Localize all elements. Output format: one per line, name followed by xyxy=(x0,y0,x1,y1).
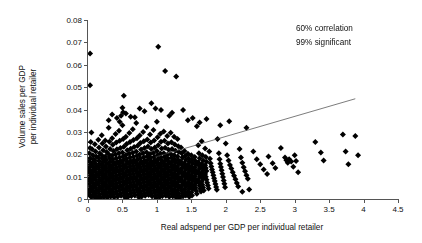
x-axis-tick xyxy=(122,199,123,203)
x-axis-tick-label: 0.5 xyxy=(117,205,128,214)
annotation-correlation: 60% correlation xyxy=(296,22,353,36)
y-axis-tick-label: 0 xyxy=(78,195,82,204)
y-axis-tick xyxy=(84,110,88,111)
x-axis-tick xyxy=(191,199,192,203)
x-axis-tick-label: 1 xyxy=(155,205,159,214)
x-axis-tick-label: 1.5 xyxy=(186,205,197,214)
y-axis-tick-label: 0.07 xyxy=(66,38,82,47)
y-axis-tick xyxy=(84,87,88,88)
annotation-significance: 99% significant xyxy=(296,36,353,50)
y-axis-tick-label: 0.08 xyxy=(66,16,82,25)
y-axis-tick xyxy=(84,177,88,178)
y-axis-tick-label: 0.04 xyxy=(66,105,82,114)
y-axis-tick-label: 0.02 xyxy=(66,150,82,159)
x-axis-title: Real adspend per GDP per individual reta… xyxy=(87,223,397,232)
y-axis-tick xyxy=(84,42,88,43)
x-axis-tick xyxy=(157,199,158,203)
y-axis-title-line1: Volume sales per GDP xyxy=(18,17,29,197)
y-axis-tick-label: 0.06 xyxy=(66,60,82,69)
y-axis-tick xyxy=(84,132,88,133)
x-axis-tick-label: 3.5 xyxy=(324,205,335,214)
x-axis-tick xyxy=(226,199,227,203)
x-axis-tick-label: 2 xyxy=(224,205,228,214)
chart-annotations: 60% correlation 99% significant xyxy=(296,22,353,50)
y-axis-tick-label: 0.05 xyxy=(66,83,82,92)
x-axis-tick-label: 2.5 xyxy=(255,205,266,214)
y-axis-tick xyxy=(84,65,88,66)
y-axis-title: Volume sales per GDP per individual reta… xyxy=(18,17,39,197)
x-axis-tick xyxy=(398,199,399,203)
y-axis-tick xyxy=(84,154,88,155)
x-axis-tick-label: 3 xyxy=(292,205,296,214)
x-axis-tick xyxy=(364,199,365,203)
x-axis-tick xyxy=(329,199,330,203)
x-axis-tick-label: 4.5 xyxy=(392,205,403,214)
x-axis-tick-label: 0 xyxy=(86,205,90,214)
x-axis-tick-label: 4 xyxy=(361,205,365,214)
y-axis-title-line2: per individual retailer xyxy=(28,17,39,197)
y-axis-tick-label: 0.03 xyxy=(66,127,82,136)
scatter-chart: Volume sales per GDP per individual reta… xyxy=(0,0,422,243)
x-axis-tick xyxy=(295,199,296,203)
y-axis-tick xyxy=(84,20,88,21)
x-axis-tick xyxy=(260,199,261,203)
x-axis-tick xyxy=(88,199,89,203)
y-axis-tick-label: 0.01 xyxy=(66,172,82,181)
